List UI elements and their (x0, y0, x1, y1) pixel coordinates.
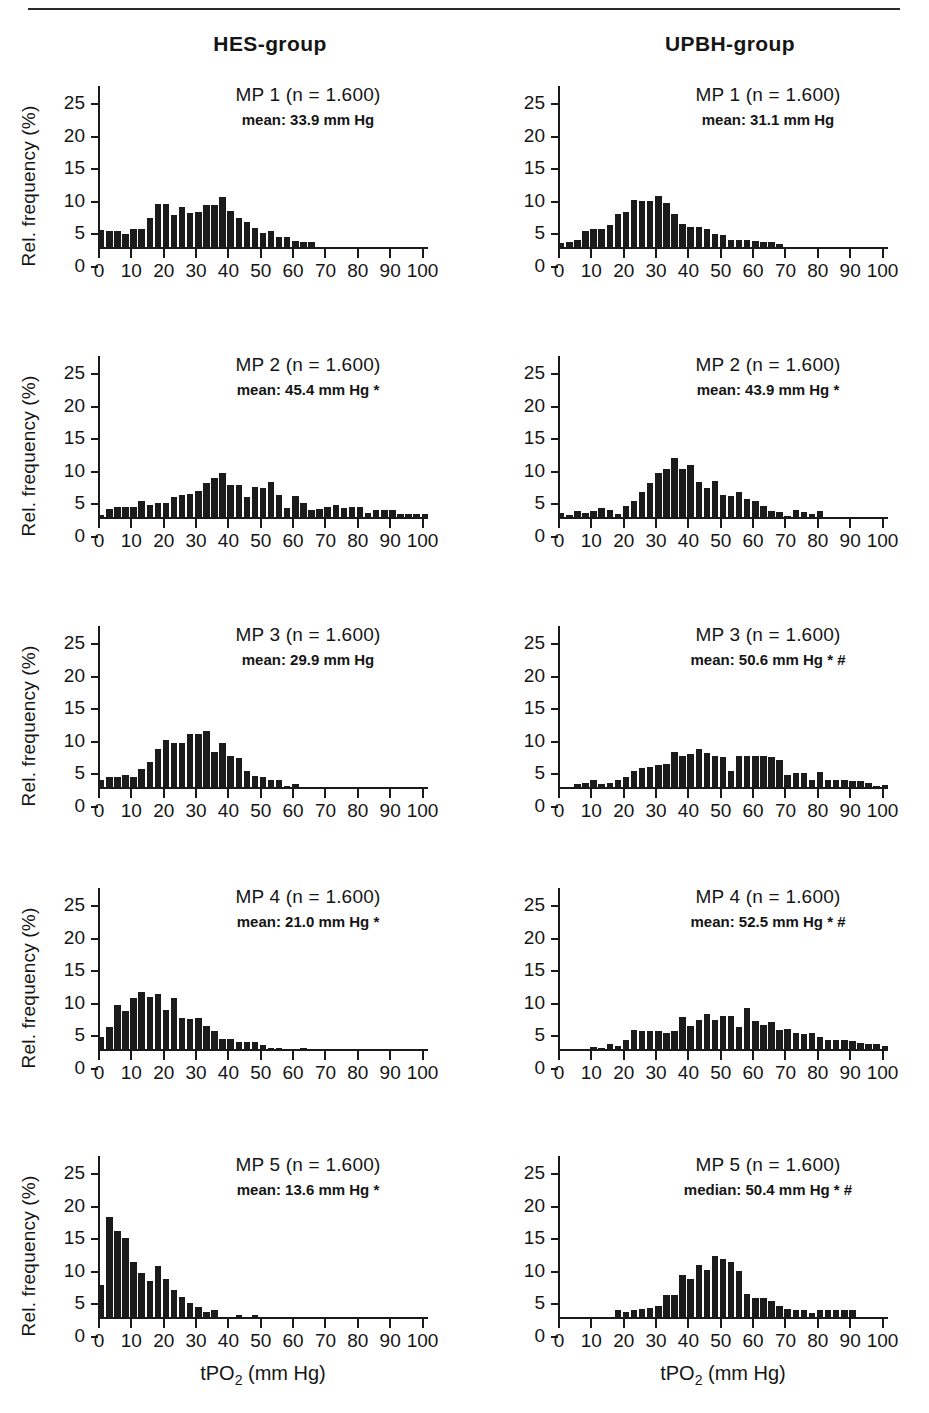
histogram-bar (849, 1310, 855, 1317)
y-tick-label: 5 (74, 1024, 85, 1046)
y-tick-label: 0 (74, 1057, 85, 1079)
y-tick-label: 10 (524, 189, 545, 211)
x-tick-label: 90 (840, 530, 861, 552)
histogram-bar (179, 207, 185, 247)
x-tick-label: 60 (283, 1330, 304, 1352)
x-tick (720, 249, 722, 258)
histogram-bar (793, 510, 799, 517)
panel-stat: mean: 43.9 mm Hg * (628, 381, 908, 398)
x-axis-line (558, 1317, 888, 1319)
y-tick-label: 10 (64, 1259, 85, 1281)
x-tick-label: 100 (867, 1062, 899, 1084)
histogram-panel-upbh-mp2: 05101520250102030405060708090100MP 2 (n … (478, 348, 918, 598)
x-tick-label: 90 (380, 1062, 401, 1084)
histogram-bar (227, 485, 233, 517)
histogram-bar (712, 756, 718, 787)
histogram-bar (647, 201, 653, 247)
histogram-bar (801, 1310, 807, 1317)
histogram-bar (801, 1034, 807, 1049)
x-tick (163, 519, 165, 528)
histogram-bar (615, 1310, 621, 1317)
histogram-bar (98, 515, 104, 517)
histogram-bar (582, 783, 588, 787)
histogram-bar (236, 218, 242, 247)
histogram-bar (236, 758, 242, 787)
histogram-bar (171, 743, 177, 787)
x-tick-label: 70 (775, 260, 796, 282)
histogram-bar (720, 235, 726, 247)
histogram-bar (252, 228, 258, 247)
histogram-bar (631, 771, 637, 787)
histogram-bar (744, 240, 750, 247)
x-tick-label: 20 (153, 1330, 174, 1352)
x-tick-label: 100 (407, 1062, 439, 1084)
x-tick (389, 1319, 391, 1328)
histogram-panel-upbh-mp4: 05101520250102030405060708090100MP 4 (n … (478, 880, 918, 1130)
x-tick-label: 80 (807, 530, 828, 552)
histogram-bar (276, 495, 282, 517)
y-tick-label: 20 (524, 1194, 545, 1216)
x-tick-label: 50 (250, 1330, 271, 1352)
x-tick-label: 50 (250, 260, 271, 282)
y-tick: 25 (91, 373, 98, 375)
x-tick-label: 80 (807, 260, 828, 282)
x-tick-label: 90 (840, 1062, 861, 1084)
x-tick (752, 1051, 754, 1060)
histogram-bar (422, 514, 428, 517)
y-tick-label: 25 (64, 362, 85, 384)
histogram-bar (413, 514, 419, 517)
histogram-bar (187, 494, 193, 517)
y-tick-label: 25 (64, 632, 85, 654)
histogram-bar (647, 483, 653, 517)
histogram-bar (817, 772, 823, 787)
histogram-bar (841, 1310, 847, 1317)
histogram-bar (324, 507, 330, 517)
x-tick-label: 20 (153, 800, 174, 822)
histogram-bar (704, 753, 710, 787)
histogram-bar (582, 513, 588, 517)
x-tick-label: 30 (645, 1062, 666, 1084)
histogram-bar (195, 734, 201, 787)
histogram-bar (687, 465, 693, 517)
histogram-panel-upbh-mp5: 05101520250102030405060708090100MP 5 (n … (478, 1148, 918, 1398)
x-tick-label: 90 (380, 1330, 401, 1352)
x-tick-label: 50 (710, 1330, 731, 1352)
x-axis-line (98, 787, 428, 789)
x-axis-line (558, 517, 888, 519)
x-tick-label: 70 (775, 1062, 796, 1084)
histogram-bar (106, 509, 112, 517)
y-axis-title: Rel. frequency (%) (16, 880, 42, 1095)
histogram-bar (260, 233, 266, 247)
histogram-bar (768, 242, 774, 247)
x-tick (784, 249, 786, 258)
x-tick-label: 60 (283, 1062, 304, 1084)
x-tick-label: 20 (613, 260, 634, 282)
y-tick: 25 (551, 643, 558, 645)
x-tick-label: 30 (645, 530, 666, 552)
histogram-bar (639, 492, 645, 517)
y-tick-label: 0 (534, 1325, 545, 1347)
histogram-bar (106, 231, 112, 247)
x-tick-label: 60 (743, 1330, 764, 1352)
histogram-bar (679, 1017, 685, 1049)
histogram-bar (252, 776, 258, 787)
histogram-bar (333, 505, 339, 517)
histogram-bar (203, 1026, 209, 1049)
histogram-bar (784, 1309, 790, 1317)
y-tick-label: 5 (74, 222, 85, 244)
panel-stat: mean: 50.6 mm Hg * # (628, 651, 908, 668)
x-tick-label: 40 (678, 530, 699, 552)
histogram-bar (607, 1044, 613, 1049)
histogram-bar (349, 507, 355, 517)
y-tick-label: 0 (74, 255, 85, 277)
histogram-bar (114, 231, 120, 247)
histogram-bar (211, 752, 217, 787)
histogram-bar (114, 1005, 120, 1049)
x-tick-label: 0 (554, 530, 565, 552)
y-tick: 5 (91, 1035, 98, 1037)
y-tick-label: 20 (524, 926, 545, 948)
x-tick (590, 249, 592, 258)
x-tick-label: 80 (807, 1330, 828, 1352)
x-tick (623, 1319, 625, 1328)
histogram-bar (122, 1238, 128, 1317)
